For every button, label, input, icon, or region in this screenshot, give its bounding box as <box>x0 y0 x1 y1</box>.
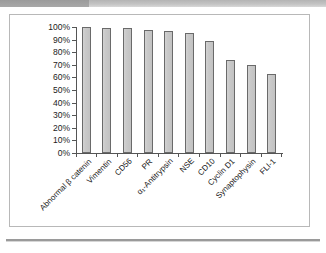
x-axis-tick-mark <box>261 153 262 157</box>
y-axis-tick-label: 30% <box>28 111 70 119</box>
bar-slot <box>97 27 118 153</box>
figure-screenshot: 0%10%20%30%40%50%60%70%80%90%100% Abnorm… <box>0 0 326 253</box>
figure-panel: 0%10%20%30%40%50%60%70%80%90%100% Abnorm… <box>9 14 310 227</box>
y-axis-tick-mark <box>72 153 76 154</box>
bar <box>267 74 276 153</box>
y-axis-tick-label: 80% <box>28 48 70 56</box>
x-axis-tick-mark <box>281 153 282 157</box>
x-axis-tick-mark <box>220 153 221 157</box>
x-axis-tick-label: FLI-1 <box>258 157 278 177</box>
y-axis-labels: 0%10%20%30%40%50%60%70%80%90%100% <box>28 27 70 153</box>
y-axis-tick-mark <box>72 115 76 116</box>
bar-slot <box>241 27 262 153</box>
bar-slot <box>200 27 221 153</box>
x-axis-tick-label: Abnormal β catenin <box>38 157 93 212</box>
y-axis-tick-mark <box>72 27 76 28</box>
x-axis-tick-mark <box>178 153 179 157</box>
bar-slot <box>261 27 282 153</box>
bar <box>185 33 194 153</box>
x-axis-line <box>76 153 283 154</box>
plot-area <box>76 27 282 153</box>
y-axis-tick-label: 10% <box>28 136 70 144</box>
bar-slot <box>138 27 159 153</box>
y-axis-tick-label: 60% <box>28 73 70 81</box>
x-axis-tick-mark <box>158 153 159 157</box>
x-axis-tick-label: CD56 <box>113 157 134 178</box>
x-axis-tick-mark <box>199 153 200 157</box>
y-axis-tick-mark <box>72 40 76 41</box>
bar <box>102 28 111 153</box>
bottom-divider-highlight <box>6 241 320 242</box>
x-axis-tick-mark <box>240 153 241 157</box>
y-axis-tick-label: 0% <box>28 149 70 157</box>
bar <box>144 30 153 153</box>
header-tab <box>0 0 89 7</box>
y-axis-tick-mark <box>72 90 76 91</box>
bar-slot <box>158 27 179 153</box>
bar <box>247 65 256 153</box>
y-axis-tick-label: 70% <box>28 61 70 69</box>
bar <box>82 27 91 153</box>
x-axis-tick-label: NSE <box>178 157 196 175</box>
bar <box>123 28 132 153</box>
x-axis-tick-mark <box>117 153 118 157</box>
y-axis-tick-mark <box>72 65 76 66</box>
x-axis-tick-mark <box>96 153 97 157</box>
y-axis-tick-mark <box>72 52 76 53</box>
y-axis-tick-label: 100% <box>28 23 70 31</box>
y-axis-tick-label: 50% <box>28 86 70 94</box>
bar-slot <box>76 27 97 153</box>
y-axis-tick-mark <box>72 103 76 104</box>
bar-slot <box>117 27 138 153</box>
bar <box>164 31 173 153</box>
bar <box>205 41 214 153</box>
header-strip <box>0 0 326 7</box>
bar-series <box>76 27 282 153</box>
x-axis-tick-label: PR <box>140 157 154 171</box>
y-axis-tick-mark <box>72 140 76 141</box>
y-axis-tick-label: 40% <box>28 99 70 107</box>
bar-slot <box>220 27 241 153</box>
y-axis-tick-label: 20% <box>28 124 70 132</box>
y-axis-tick-mark <box>72 128 76 129</box>
y-axis-tick-label: 90% <box>28 36 70 44</box>
y-axis-tick-mark <box>72 77 76 78</box>
bar-slot <box>179 27 200 153</box>
x-axis-tick-mark <box>137 153 138 157</box>
bar-chart: 0%10%20%30%40%50%60%70%80%90%100% Abnorm… <box>10 15 309 226</box>
bar <box>226 60 235 153</box>
